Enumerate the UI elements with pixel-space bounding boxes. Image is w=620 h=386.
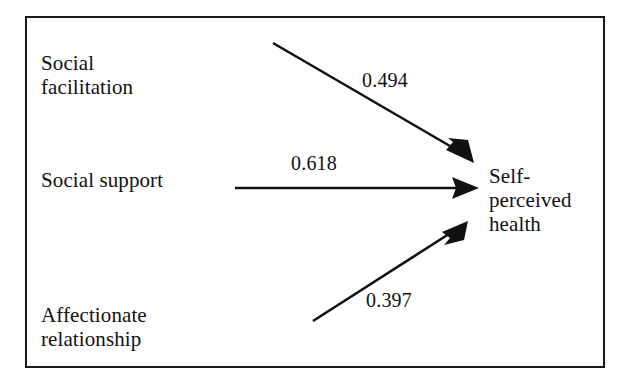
arrow-shaft — [273, 43, 462, 153]
arrow-head — [446, 138, 474, 163]
arrow-social-facilitation-to-health — [273, 43, 474, 163]
coefficient-social-support: 0.618 — [291, 152, 337, 174]
arrow-social-support-to-health — [235, 177, 479, 199]
arrow-head — [452, 177, 479, 199]
coefficient-affectionate-relationship: 0.397 — [366, 289, 412, 311]
node-social-facilitation: Social facilitation — [41, 51, 133, 99]
node-self-perceived-health: Self- perceived health — [489, 164, 572, 236]
node-affectionate-relationship: Affectionate relationship — [41, 303, 147, 351]
node-social-support: Social support — [41, 168, 163, 192]
coefficient-social-facilitation: 0.494 — [362, 69, 408, 91]
diagram-canvas: Social facilitation Social support Affec… — [0, 0, 620, 386]
arrow-head — [442, 221, 468, 245]
